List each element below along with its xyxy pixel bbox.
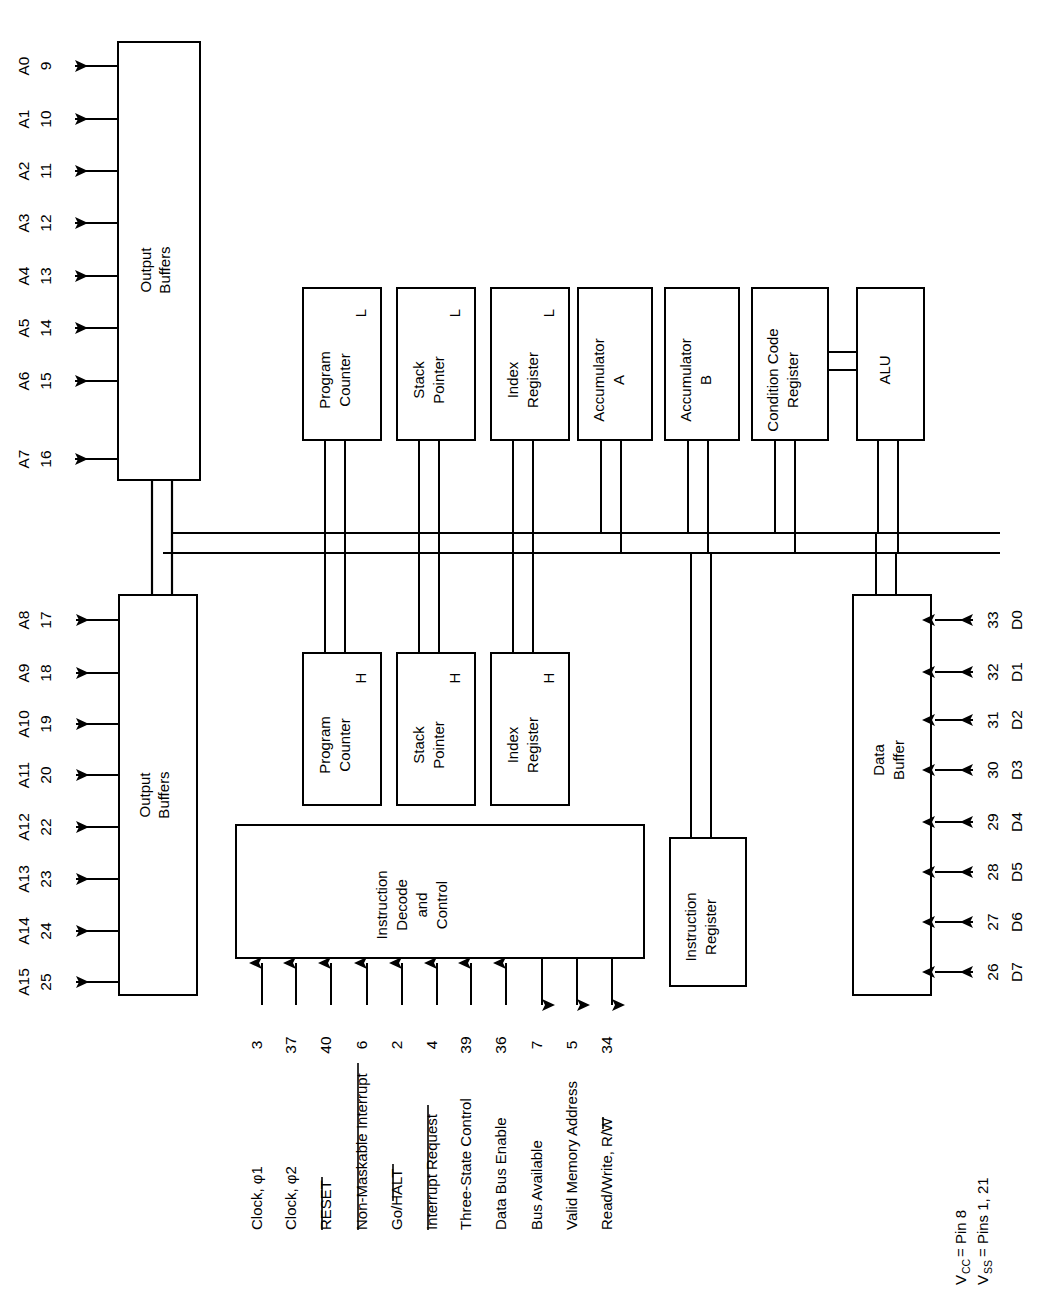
pin-number-clock-phi2: 37 — [282, 1036, 299, 1053]
pin-number-d3: 30 — [984, 761, 1001, 779]
signal-name-a11: A11 — [15, 762, 32, 788]
signal-name-a7: A7 — [15, 450, 32, 469]
pin-number-reset: 40 — [317, 1036, 334, 1054]
address-low-pin-wires — [75, 66, 118, 459]
stack-pointer-low-label-line2: Pointer — [430, 356, 447, 404]
alu-label: ALU — [876, 355, 893, 384]
signal-name-a15: A15 — [15, 968, 32, 996]
pin-number-a2: 11 — [37, 163, 54, 179]
signal-name-d1: D1 — [1008, 662, 1025, 682]
vcc-note-rest: = Pin 8 — [952, 1210, 969, 1257]
signal-name-d4: D4 — [1008, 812, 1025, 832]
data-buffer-label-line2: Buffer — [890, 740, 907, 780]
signal-name-a0: A0 — [15, 56, 32, 75]
signal-name-d7: D7 — [1008, 962, 1025, 982]
index-register-high-label-line1: Index — [504, 726, 521, 763]
signal-name-a10: A10 — [15, 710, 32, 738]
data-buffer-group: Data Buffer 33 D0 32 D1 31 D2 30 D3 29 D… — [853, 533, 1025, 995]
pin-number-a5: 14 — [37, 319, 54, 337]
lower-register-row: Program Counter H Stack Pointer H Index … — [303, 533, 569, 805]
signal-name-a14: A14 — [15, 917, 32, 945]
control-label-nmi: Non-Maskable Interrupt — [353, 1072, 370, 1230]
pin-number-a13: 23 — [37, 870, 54, 887]
pin-number-nmi: 6 — [353, 1041, 370, 1050]
vss-note-sub: SS — [982, 1260, 994, 1274]
control-label-clock-phi1: Clock, φ1 — [248, 1166, 265, 1230]
signal-name-a8: A8 — [15, 611, 32, 630]
pin-number-a6: 15 — [37, 372, 54, 389]
control-label-rw: Read/Write, R/W — [598, 1117, 615, 1230]
signal-name-d5: D5 — [1008, 862, 1025, 882]
control-label-irq: Interrupt Request — [423, 1113, 440, 1230]
signal-name-a3: A3 — [15, 214, 32, 233]
pin-number-d0: 33 — [984, 611, 1001, 628]
stack-pointer-high-suffix: H — [446, 673, 463, 684]
index-register-low-suffix: L — [540, 309, 557, 317]
instruction-decode-label-line4: Control — [433, 881, 450, 929]
pin-number-a3: 12 — [37, 214, 54, 231]
data-buffer-label-line1: Data — [870, 744, 887, 776]
signal-name-d3: D3 — [1008, 760, 1025, 780]
pin-number-vma: 5 — [563, 1041, 580, 1050]
vss-note-rest: = Pins 1, 21 — [974, 1177, 991, 1257]
output-buffers-high-label-line1: Output — [136, 772, 153, 818]
pin-number-a1: 10 — [37, 110, 54, 128]
address-low-labels: A0 9 A1 10 A2 11 A3 12 A4 13 A5 14 A6 15… — [15, 56, 54, 468]
pin-number-dbe: 36 — [492, 1036, 509, 1053]
output-buffers-low-label-line1: Output — [137, 247, 154, 293]
program-counter-low-label-line2: Counter — [336, 353, 353, 406]
vcc-note-sub: CC — [960, 1258, 972, 1274]
address-high-pin-wires — [76, 620, 119, 982]
control-label-go-halt: Go/HALT — [388, 1169, 405, 1230]
control-label-reset: RESET — [317, 1180, 334, 1230]
pin-number-d7: 26 — [984, 963, 1001, 980]
power-supply-notes: V CC = Pin 8 V SS = Pins 1, 21 — [952, 1177, 994, 1285]
signal-name-a6: A6 — [15, 372, 32, 391]
control-label-ba: Bus Available — [528, 1140, 545, 1230]
index-register-high-suffix: H — [540, 673, 557, 684]
index-register-low-label-line1: Index — [504, 361, 521, 398]
accumulator-b-label-line1: Accumulator — [677, 338, 694, 421]
pin-number-d6: 27 — [984, 913, 1001, 930]
upper-register-row: Program Counter L Stack Pointer L Index … — [303, 288, 924, 553]
block-data-buffer — [853, 595, 931, 995]
control-signal-pins — [262, 958, 612, 1005]
pin-number-d2: 31 — [984, 711, 1001, 728]
instruction-decode-label-line3: and — [413, 892, 430, 917]
control-label-tsc: Three-State Control — [457, 1098, 474, 1230]
diagram-canvas: Output Buffers A0 9 A1 10 A2 11 A3 12 A4… — [0, 0, 1058, 1295]
control-label-dbe: Data Bus Enable — [492, 1117, 509, 1230]
stack-pointer-low-suffix: L — [446, 309, 463, 317]
program-counter-high-label-line2: Counter — [336, 718, 353, 771]
index-register-low-label-line2: Register — [524, 352, 541, 408]
data-pin-wires — [935, 620, 973, 972]
pin-number-a4: 13 — [37, 267, 54, 284]
pin-number-a10: 19 — [37, 715, 54, 732]
pin-number-a15: 25 — [37, 973, 54, 990]
pin-number-a8: 17 — [37, 611, 54, 628]
condition-code-register-label-line1: Condition Code — [764, 328, 781, 431]
program-counter-low-label-line1: Program — [316, 351, 333, 409]
output-buffers-low-group: Output Buffers A0 9 A1 10 A2 11 A3 12 A4… — [15, 42, 200, 480]
pin-number-go-halt: 2 — [388, 1041, 405, 1050]
program-counter-high-label-line1: Program — [316, 716, 333, 774]
microprocessor-block-diagram: Output Buffers A0 9 A1 10 A2 11 A3 12 A4… — [0, 0, 1058, 1295]
signal-name-d2: D2 — [1008, 710, 1025, 730]
pin-number-d4: 29 — [984, 813, 1001, 830]
program-counter-low-suffix: L — [352, 309, 369, 317]
vcc-note-main: V — [952, 1275, 969, 1285]
instruction-register-label-line1: Instruction — [682, 892, 699, 961]
signal-name-a5: A5 — [15, 319, 32, 338]
signal-name-a12: A12 — [15, 813, 32, 841]
accumulator-b-label-line2: B — [697, 375, 714, 385]
control-pin-numbers: 3 37 40 6 2 4 39 36 7 5 34 — [248, 1036, 615, 1054]
control-label-vma: Valid Memory Address — [563, 1081, 580, 1230]
instruction-decode-group: Instruction Decode and Control — [236, 825, 644, 958]
signal-name-a9: A9 — [15, 664, 32, 683]
stack-pointer-low-label-line1: Stack — [410, 361, 427, 399]
pin-number-irq: 4 — [423, 1040, 440, 1049]
instruction-decode-label-line1: Instruction — [373, 870, 390, 939]
data-pin-labels: 33 D0 32 D1 31 D2 30 D3 29 D4 28 D5 27 D… — [984, 610, 1025, 982]
signal-name-a13: A13 — [15, 865, 32, 893]
output-buffers-high-label-line2: Buffers — [155, 771, 172, 818]
